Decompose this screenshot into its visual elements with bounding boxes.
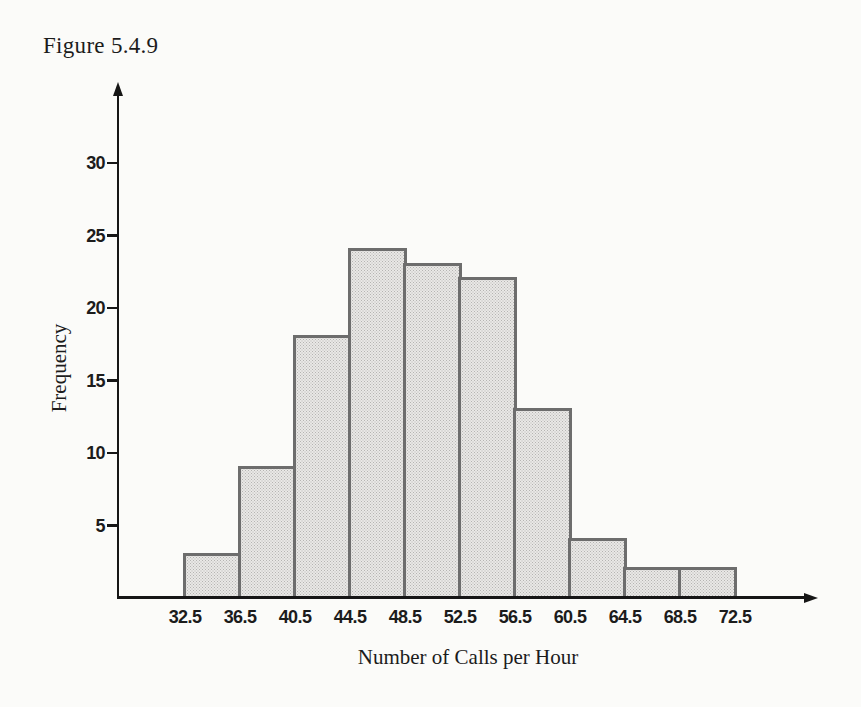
y-tick-mark xyxy=(107,307,119,309)
histogram-bar xyxy=(678,567,737,599)
y-tick-label: 20 xyxy=(60,297,105,319)
x-tick-label: 64.5 xyxy=(597,606,653,628)
histogram-bar xyxy=(238,466,297,600)
x-tick-label: 32.5 xyxy=(157,606,213,628)
histogram-plot: Frequency Number of Calls per Hour 51015… xyxy=(0,0,861,707)
x-axis-title: Number of Calls per Hour xyxy=(358,645,578,670)
y-tick-mark xyxy=(107,452,119,454)
y-tick-mark xyxy=(107,234,119,236)
x-tick-label: 52.5 xyxy=(432,606,488,628)
scanned-textbook-figure: Figure 5.4.9 Frequency Number of Calls p… xyxy=(0,0,861,707)
y-tick-label: 30 xyxy=(60,152,105,174)
histogram-bar xyxy=(568,538,627,599)
x-tick-label: 72.5 xyxy=(707,606,763,628)
up-arrow-icon xyxy=(113,82,123,96)
right-arrow-icon xyxy=(804,593,818,603)
x-tick-label: 36.5 xyxy=(212,606,268,628)
x-tick-label: 44.5 xyxy=(322,606,378,628)
histogram-bar xyxy=(183,553,242,600)
y-tick-label: 5 xyxy=(60,515,105,537)
histogram-bar xyxy=(458,277,517,599)
y-tick-mark xyxy=(107,524,119,526)
y-axis-line xyxy=(117,90,120,599)
histogram-bar xyxy=(623,567,682,599)
y-tick-label: 15 xyxy=(60,370,105,392)
y-tick-mark xyxy=(107,162,119,164)
x-tick-label: 48.5 xyxy=(377,606,433,628)
y-axis-title: Frequency xyxy=(47,324,72,413)
x-axis-line xyxy=(117,596,807,599)
y-tick-mark xyxy=(107,379,119,381)
y-tick-label: 10 xyxy=(60,442,105,464)
histogram-bar xyxy=(348,248,407,599)
y-tick-label: 25 xyxy=(60,225,105,247)
histogram-bar xyxy=(403,263,462,600)
x-tick-label: 40.5 xyxy=(267,606,323,628)
x-tick-label: 68.5 xyxy=(652,606,708,628)
histogram-bar xyxy=(513,408,572,600)
x-tick-label: 56.5 xyxy=(487,606,543,628)
x-tick-label: 60.5 xyxy=(542,606,598,628)
histogram-bar xyxy=(293,335,352,599)
